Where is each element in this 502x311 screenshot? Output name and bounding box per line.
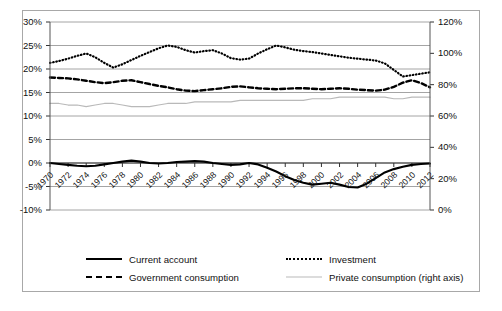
right-axis-tick-label: 80%: [438, 80, 472, 90]
left-axis-tick-label: 10%: [12, 111, 42, 121]
legend-label: Government consumption: [129, 272, 239, 283]
right-axis-tick-label: 120%: [438, 17, 472, 27]
series-line: [50, 46, 430, 77]
legend-entry[interactable]: Private consumption (right axis): [286, 270, 463, 284]
legend-swatch-solid-gray: [286, 272, 322, 282]
series-line: [50, 97, 430, 106]
figure-container: 30%25%20%15%10%5%0%-5%-10% 120%100%80%60…: [0, 0, 502, 311]
legend-label: Investment: [329, 254, 376, 265]
left-axis-tick-label: -10%: [12, 205, 42, 215]
right-axis-tick-label: 40%: [438, 142, 472, 152]
right-axis-tick-label: 60%: [438, 111, 472, 121]
legend-entry[interactable]: Current account: [86, 252, 197, 266]
legend-swatch-dotted: [286, 254, 322, 264]
left-axis-tick-label: 5%: [12, 135, 42, 145]
legend-label: Current account: [129, 254, 197, 265]
left-axis-tick-label: 0%: [12, 158, 42, 168]
right-axis-ticks: [430, 22, 434, 210]
legend-label: Private consumption (right axis): [329, 272, 463, 283]
data-series-layer: [50, 46, 430, 188]
chart-legend: Current accountInvestmentGovernment cons…: [86, 252, 446, 286]
legend-swatch-solid: [86, 254, 122, 264]
legend-entry[interactable]: Government consumption: [86, 270, 239, 284]
legend-swatch-dashed: [86, 272, 122, 282]
legend-entry[interactable]: Investment: [286, 252, 376, 266]
series-line: [50, 77, 430, 91]
right-axis-tick-label: 20%: [438, 174, 472, 184]
left-axis-tick-label: 20%: [12, 64, 42, 74]
right-axis-tick-label: 0%: [438, 205, 472, 215]
left-axis-tick-label: 30%: [12, 17, 42, 27]
left-axis-tick-label: 25%: [12, 41, 42, 51]
right-axis-tick-label: 100%: [438, 48, 472, 58]
left-axis-tick-label: 15%: [12, 88, 42, 98]
